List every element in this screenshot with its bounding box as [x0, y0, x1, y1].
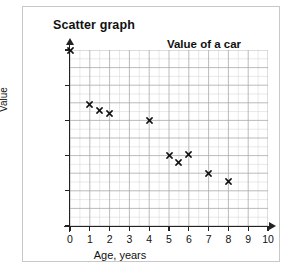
x-axis-tick — [168, 226, 169, 231]
x-axis-tick-label: 8 — [218, 233, 238, 245]
x-axis-tick-label: 10 — [258, 233, 278, 245]
chart-grid — [70, 50, 268, 226]
x-axis-tick-label: 4 — [139, 233, 159, 245]
x-axis-tick-label: 3 — [119, 233, 139, 245]
x-axis-tick-label: 5 — [159, 233, 179, 245]
y-axis-line — [69, 44, 70, 232]
screenshot-root: Scatter graph Value of a car £0£2000£400… — [0, 0, 286, 273]
x-axis-tick — [149, 226, 150, 231]
y-axis-tick-labels: £0£2000£4000£6000£8000£10000 — [0, 0, 67, 273]
x-axis-tick — [228, 226, 229, 231]
y-axis-arrow-icon — [66, 38, 74, 45]
x-axis-tick — [248, 226, 249, 231]
x-axis-tick — [129, 226, 130, 231]
x-axis-tick-label: 0 — [60, 233, 80, 245]
x-axis-tick-label: 2 — [100, 233, 120, 245]
x-axis-tick-label: 1 — [80, 233, 100, 245]
y-axis-title: Value — [0, 87, 9, 112]
x-axis-tick — [109, 226, 110, 231]
x-axis-title: Age, years — [94, 249, 147, 261]
x-axis-tick-label: 9 — [238, 233, 258, 245]
chart-title: Value of a car — [129, 38, 279, 50]
x-axis-tick — [69, 226, 70, 231]
x-axis-tick — [89, 226, 90, 231]
x-axis-arrow-icon — [269, 222, 276, 230]
x-axis-tick — [208, 226, 209, 231]
x-axis-tick-label: 7 — [199, 233, 219, 245]
x-axis-tick-label: 6 — [179, 233, 199, 245]
x-axis-tick — [267, 226, 268, 231]
x-axis-tick — [188, 226, 189, 231]
